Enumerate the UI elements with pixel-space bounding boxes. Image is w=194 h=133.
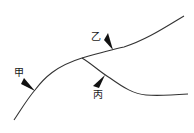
- label-yi: 乙: [91, 32, 101, 42]
- label-jia: 甲: [14, 68, 24, 78]
- marker-bing-triangle: [93, 75, 105, 88]
- label-bing: 丙: [93, 90, 103, 100]
- diagram-canvas: 甲 乙 丙: [0, 0, 194, 133]
- marker-yi-triangle: [104, 33, 113, 50]
- marker-jia-triangle: [21, 78, 35, 91]
- diagram-svg: [0, 0, 194, 133]
